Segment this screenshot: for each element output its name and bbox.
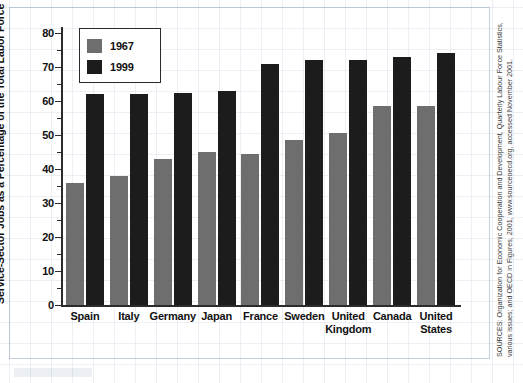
bar-1967 [373, 106, 391, 305]
x-axis-label-united-states: United States [408, 310, 464, 336]
y-tick-minor [57, 254, 62, 255]
legend-row: 1999 [87, 56, 153, 77]
bar-1967 [329, 133, 347, 305]
bar-1999 [437, 53, 455, 305]
bar-1967 [110, 176, 128, 305]
y-tick-major [55, 237, 62, 238]
y-tick-label: 30 [8, 197, 54, 209]
scan-artifact [14, 368, 92, 377]
legend-swatch-1999 [87, 60, 102, 74]
y-tick-label: 0 [8, 299, 54, 311]
bar-group [239, 33, 283, 305]
legend-label-1999: 1999 [110, 61, 134, 73]
bar-group [282, 33, 326, 305]
bar-1999 [349, 60, 367, 305]
y-tick-minor [57, 186, 62, 187]
y-tick-major [55, 101, 62, 102]
figure-page: Service-Sector Jobs as a Percentage of t… [0, 0, 523, 383]
y-tick-major [55, 203, 62, 204]
bar-1999 [218, 91, 236, 305]
y-tick-label: 70 [8, 61, 54, 73]
y-tick-major [55, 33, 62, 34]
legend-swatch-1967 [87, 39, 102, 53]
y-tick-minor [57, 84, 62, 85]
bar-1967 [241, 154, 259, 305]
y-tick-minor [57, 220, 62, 221]
y-tick-label: 50 [8, 129, 54, 141]
bar-group [326, 33, 370, 305]
bar-1967 [198, 152, 216, 305]
bar-1999 [174, 93, 192, 306]
legend-label-1967: 1967 [110, 40, 134, 52]
y-tick-label: 10 [8, 265, 54, 277]
bar-1967 [417, 106, 435, 305]
y-tick-major [55, 135, 62, 136]
y-tick-major [55, 305, 62, 306]
y-tick-label: 20 [8, 231, 54, 243]
y-tick-major [55, 169, 62, 170]
y-tick-minor [57, 50, 62, 51]
bar-1967 [154, 159, 172, 305]
y-tick-label: 60 [8, 95, 54, 107]
y-axis-title: Service-Sector Jobs as a Percentage of t… [0, 0, 10, 18]
source-note: SOURCES: Organization for Economic Coope… [495, 0, 515, 12]
bar-1967 [285, 140, 303, 305]
y-tick-minor [57, 118, 62, 119]
y-tick-label: 40 [8, 163, 54, 175]
x-axis-line [61, 305, 461, 307]
bar-group [195, 33, 239, 305]
bar-1999 [393, 57, 411, 305]
bar-1967 [66, 183, 84, 305]
chart-legend: 19671999 [79, 28, 161, 83]
bar-group [370, 33, 414, 305]
y-tick-minor [57, 288, 62, 289]
bar-group [414, 33, 458, 305]
y-tick-major [55, 271, 62, 272]
source-note-text: SOURCES: Organization for Economic Coope… [495, 12, 514, 357]
y-tick-major [55, 67, 62, 68]
bar-1999 [261, 64, 279, 305]
legend-row: 1967 [87, 35, 153, 56]
y-tick-minor [57, 152, 62, 153]
y-axis-title-label: Service-Sector Jobs as a Percentage of t… [0, 14, 6, 304]
bar-1999 [305, 60, 323, 305]
y-tick-label: 80 [8, 27, 54, 39]
bar-1999 [130, 94, 148, 305]
bar-1999 [86, 94, 104, 305]
